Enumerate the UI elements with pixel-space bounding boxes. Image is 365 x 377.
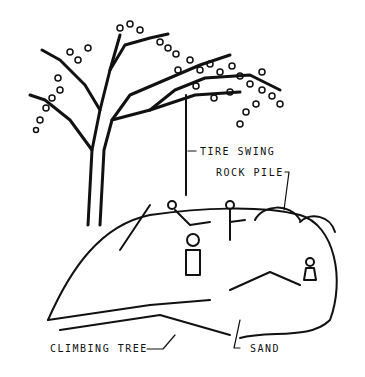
label-tire-swing: TIRE SWING (200, 147, 275, 157)
rock-pile (255, 208, 335, 232)
playground-illustration: TIRE SWING ROCK PILE CLIMBING TREE SAND (0, 0, 365, 377)
label-sand: SAND (250, 344, 280, 354)
tree (30, 34, 280, 225)
label-climbing-tree: CLIMBING TREE (50, 344, 148, 354)
label-rock-pile: ROCK PILE (216, 168, 284, 178)
drawing (0, 0, 365, 377)
leader-lines (147, 151, 289, 349)
